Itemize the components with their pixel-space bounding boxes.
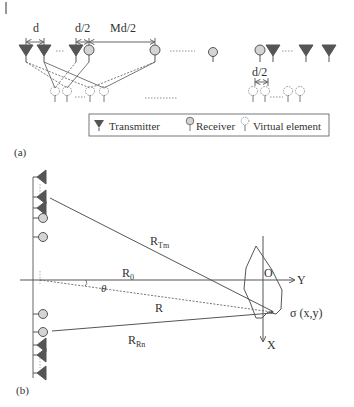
diagram-canvas: d d/2 Md/2: [0, 0, 354, 407]
transmitter-icon: [69, 45, 83, 56]
range-line-rn: [52, 313, 272, 331]
transmitter-icon: [19, 45, 33, 56]
label-y-axis: Y: [297, 273, 306, 287]
transmitter-icon: [37, 201, 46, 215]
receiver-icon: [39, 214, 48, 223]
array-upper: [33, 170, 48, 242]
receiver-icon: [209, 48, 218, 57]
transmitter-icon: [37, 45, 51, 56]
transmitter-icon: [266, 45, 280, 56]
panel-a: d d/2 Md/2: [14, 0, 336, 159]
receiver-row-left: [84, 45, 160, 62]
virtual-element-icon: [249, 87, 258, 96]
array-right: [255, 45, 336, 62]
label-r-rn: RRn: [128, 333, 145, 349]
transmitter-row-left: [19, 45, 83, 62]
caption-b: (b): [16, 384, 29, 397]
receiver-icon: [150, 45, 160, 55]
label-r-tm: RTm: [150, 234, 170, 250]
label-r0: R0: [122, 266, 134, 282]
transmitter-icon: [37, 348, 46, 362]
receiver-icon: [84, 45, 94, 55]
legend-virtual-label: Virtual element: [253, 120, 321, 132]
receiver-icon: [39, 233, 48, 242]
label-x-axis: X: [267, 338, 276, 352]
dim-d-label: d: [33, 21, 39, 35]
array-lower: [33, 310, 48, 381]
receiver-icon: [39, 310, 48, 319]
connection-lines: [26, 62, 155, 88]
virtual-element-icon: [296, 87, 305, 96]
legend-receiver-label: Receiver: [196, 120, 235, 132]
receiver-icon: [39, 328, 48, 337]
transmitter-icon: [37, 170, 46, 184]
label-r: R: [155, 301, 163, 315]
dim-d-half-label: d/2: [75, 21, 90, 35]
virtual-element-icon: [284, 87, 293, 96]
range-line-tm: [50, 198, 272, 311]
virtual-element-icon: [261, 87, 270, 96]
transmitter-icon: [37, 366, 46, 380]
legend-receiver-icon: [186, 117, 194, 125]
label-sigma: σ (x,y): [290, 306, 322, 320]
legend-transmitter-label: Transmitter: [109, 120, 160, 132]
receiver-icon: [255, 45, 265, 55]
caption-a: (a): [14, 146, 27, 159]
label-theta: θ: [101, 282, 107, 294]
transmitter-icon: [299, 45, 313, 56]
virtual-element-icon: [86, 87, 95, 96]
dim-d-half-right-label: d/2: [252, 65, 267, 79]
dim-md-half-label: Md/2: [110, 21, 136, 35]
transmitter-icon: [322, 45, 336, 56]
panel-b: RTm R0 θ R RRn O Y X σ (x,y) (b): [16, 170, 322, 397]
label-origin: O: [264, 266, 273, 280]
